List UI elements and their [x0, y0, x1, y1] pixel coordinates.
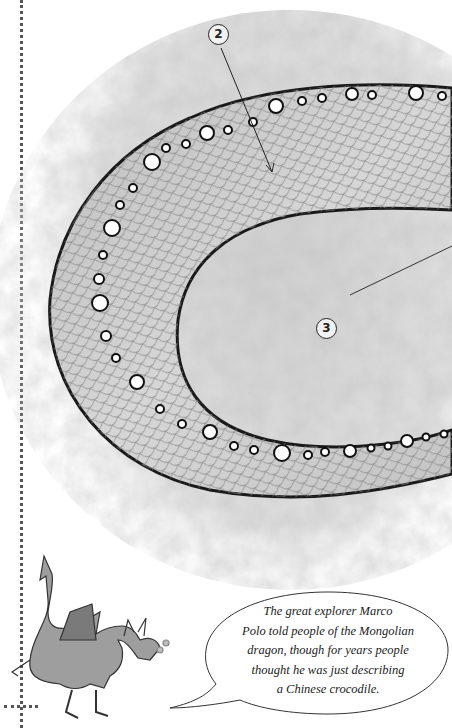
bubble-line: a Chinese crocodile.: [228, 680, 428, 700]
bubble-line: dragon, though for years people: [228, 641, 428, 661]
callout-number-2: 2: [208, 24, 229, 45]
book-page: 2 3 The great explorer Marco Polo told p…: [0, 0, 452, 728]
bubble-line: Polo told people of the Mongolian: [228, 622, 428, 642]
speech-bubble-text: The great explorer Marco Polo told peopl…: [228, 602, 428, 700]
bubble-line: The great explorer Marco: [228, 602, 428, 622]
bubble-line: thought he was just describing: [228, 661, 428, 681]
small-dragon-mascot: [12, 556, 169, 718]
callout-number-3: 3: [316, 318, 337, 339]
